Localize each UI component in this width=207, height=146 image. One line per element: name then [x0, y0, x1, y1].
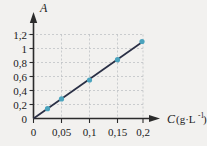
data-point — [59, 96, 64, 101]
x-tick-label-0_15: 0,15 — [108, 126, 128, 138]
y-tick-label-0_8: 0,8 — [13, 57, 27, 69]
x-axis-label-symbol: C — [167, 112, 176, 126]
y-tick-label-0_4: 0,4 — [13, 85, 27, 97]
y-axis-label: A — [39, 1, 48, 15]
x-axis-label-paren-close: ) — [203, 113, 207, 126]
data-point — [87, 77, 92, 82]
y-tick-label-1: 1 — [22, 43, 28, 55]
data-point — [139, 39, 144, 44]
x-tick-label-0_1: 0,1 — [83, 126, 97, 138]
y-tick-label-0_2: 0,2 — [13, 99, 27, 111]
x-tick-label-0_05: 0,05 — [52, 126, 72, 138]
y-tick-label-1_2: 1,2 — [13, 29, 27, 41]
x-tick-label-0_2: 0,2 — [136, 126, 150, 138]
y-tick-label-0: 0 — [22, 113, 28, 125]
chart-figure: 1,2 1 0,8 0,6 0,4 0,2 0 0 0,05 0,1 0,15 … — [0, 0, 207, 146]
data-point — [45, 106, 50, 111]
x-tick-label-0: 0 — [31, 126, 37, 138]
y-tick-label-0_6: 0,6 — [13, 71, 27, 83]
data-point — [115, 57, 120, 62]
calibration-curve-chart: 1,2 1 0,8 0,6 0,4 0,2 0 0 0,05 0,1 0,15 … — [0, 0, 207, 146]
x-axis-label-unit: (g·L — [176, 113, 196, 126]
